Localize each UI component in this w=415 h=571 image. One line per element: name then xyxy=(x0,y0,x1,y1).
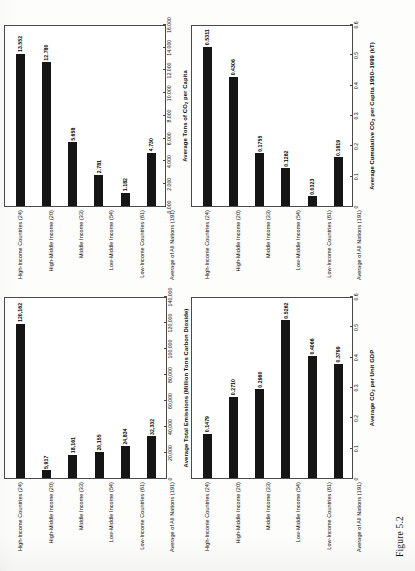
bar xyxy=(42,470,51,478)
axis-tick-label: 0.1 xyxy=(353,445,359,452)
category-label: High-Income Countries (24) xyxy=(18,479,24,563)
bar-value-label: 0.3799 xyxy=(335,346,341,362)
figure-caption: Figure 5.2 xyxy=(395,516,405,557)
category-label: High-Middle Income (20) xyxy=(236,479,242,563)
axis-tick-label: 0 xyxy=(353,478,359,481)
value-axis-co2-per-capita: 0.0002.0004.0006.0008.00010.00012.00014.… xyxy=(166,25,181,207)
axis-tick-label: 0.2 xyxy=(353,415,359,422)
category-label: Low-Middle Income (54) xyxy=(109,207,115,291)
category-label: Low-Middle Income (54) xyxy=(296,207,302,291)
bar-row: 12.780 xyxy=(41,26,52,206)
bar-value-label: 0.0323 xyxy=(309,179,315,195)
plot-wrap-total-emissions: 120,1625,91718,16120,15524,83432,332 020… xyxy=(4,297,189,479)
bar-row: 0.2960 xyxy=(254,298,265,478)
plot-area-total-emissions: 120,1625,91718,16120,15524,83432,332 xyxy=(4,297,167,479)
axis-tick-label: 14.000 xyxy=(166,40,172,56)
axis-tick-label: 0.5 xyxy=(353,324,359,331)
category-axis-total-emissions: High-Income Countries (24) High-Middle I… xyxy=(4,479,189,563)
bar xyxy=(121,446,130,478)
bar-value-label: 18,161 xyxy=(70,437,76,453)
bar xyxy=(68,142,77,206)
bar-row: 0.4306 xyxy=(228,26,239,206)
bar xyxy=(68,455,77,478)
bar-row: 5.658 xyxy=(67,26,78,206)
bar-value-label: 0.4066 xyxy=(309,338,315,354)
category-axis-co2-per-capita: High-Income Countries (24) High-Middle I… xyxy=(4,207,189,291)
bar xyxy=(334,364,343,478)
bar-value-label: 4.730 xyxy=(148,138,154,151)
bar-value-label: 0.2960 xyxy=(257,372,263,388)
category-label: Average of All Nations (191) xyxy=(170,207,176,291)
bar-value-label: 0.1619 xyxy=(335,140,341,156)
category-label: Low-Middle Income (54) xyxy=(296,479,302,563)
category-label: High-Income Countries (24) xyxy=(205,479,211,563)
axis-title-cumulative-co2: Average Cumulative CO2 per Capita 1950–1… xyxy=(369,25,376,207)
bar-row: 0.2710 xyxy=(228,298,239,478)
category-label: Low-Middle Income (54) xyxy=(109,479,115,563)
bar-row: 0.1755 xyxy=(254,26,265,206)
bar xyxy=(147,153,156,206)
chart-co2-per-capita: High-Income Countries (24) High-Middle I… xyxy=(4,25,189,291)
bar xyxy=(229,397,238,478)
axis-tick-label: 120,000 xyxy=(167,314,173,333)
bar-value-label: 120,162 xyxy=(17,303,23,322)
value-axis-cumulative-co2: 00.10.20.30.40.50.6 xyxy=(353,25,368,207)
bar xyxy=(121,193,130,206)
bar-value-label: 1.182 xyxy=(122,178,128,191)
category-label: Low-Income Countries (61) xyxy=(140,207,146,291)
bar xyxy=(229,77,238,206)
bar-row: 120,162 xyxy=(15,298,26,478)
bar-row: 0.1619 xyxy=(333,26,344,206)
plot-area-co2-per-capita: 13.55212.7805.6582.7811.1824.730 xyxy=(4,25,166,207)
bar-value-label: 0.1755 xyxy=(257,136,263,152)
bar-value-label: 12.780 xyxy=(43,45,49,61)
category-label: Middle Income (33) xyxy=(79,207,85,291)
bar xyxy=(94,175,103,206)
bar-value-label: 24,834 xyxy=(122,428,128,444)
bar-row: 1.182 xyxy=(120,26,131,206)
axis-tick-label: 0.000 xyxy=(166,201,172,214)
bar xyxy=(95,452,104,478)
subscript: 2 xyxy=(371,119,376,122)
plot-area-co2-per-unit-gdp: 0.14790.27100.29600.52620.40660.3799 xyxy=(191,297,353,479)
bar-row: 0.5311 xyxy=(202,26,213,206)
axis-tick-label: 0.3 xyxy=(353,112,359,119)
category-label: High-Income Countries (24) xyxy=(205,207,211,291)
category-label: Low-Income Countries (61) xyxy=(327,207,333,291)
bar-value-label: 0.1262 xyxy=(283,150,289,166)
bar-row: 0.5262 xyxy=(280,298,291,478)
bar-row: 0.3799 xyxy=(333,298,344,478)
category-label: High-Income Countries (24) xyxy=(18,207,24,291)
bar-row: 18,161 xyxy=(67,298,78,478)
axis-title-total-emissions: Average Total Emissions (Million Tons Ca… xyxy=(183,297,189,479)
category-label: High-Middle Income (20) xyxy=(49,479,55,563)
chart-co2-per-unit-gdp: High-Income Countries (24) High-Middle I… xyxy=(191,297,376,563)
bar xyxy=(203,47,212,206)
bar-row: 0.1262 xyxy=(280,26,291,206)
bar-value-label: 32,332 xyxy=(149,419,155,435)
bar-value-label: 0.1479 xyxy=(204,416,210,432)
axis-tick-label: 0.6 xyxy=(353,21,359,28)
category-label: Low-Income Countries (61) xyxy=(327,479,333,563)
bar xyxy=(147,436,156,478)
axis-tick-label: 60,000 xyxy=(167,393,173,409)
bar-row: 0.0323 xyxy=(307,26,318,206)
subscript: 2 xyxy=(184,102,189,105)
category-axis-cumulative-co2: High-Income Countries (24) High-Middle I… xyxy=(191,207,376,291)
bar xyxy=(42,62,51,206)
category-label: Middle Income (33) xyxy=(266,207,272,291)
category-label: Average of All Nations (191) xyxy=(170,479,176,563)
axis-title-co2-per-capita: Average Tons of CO2 per Capita xyxy=(182,25,189,207)
bar xyxy=(16,54,25,206)
axis-title-co2-per-unit-gdp: Average CO2 per Unit GDP xyxy=(369,297,376,479)
bar xyxy=(203,434,212,478)
bar xyxy=(281,320,290,478)
category-axis-co2-per-unit-gdp: High-Income Countries (24) High-Middle I… xyxy=(191,479,376,563)
bar xyxy=(334,157,343,206)
bar xyxy=(281,168,290,206)
axis-tick-label: 100,000 xyxy=(167,340,173,359)
bar-value-label: 20,155 xyxy=(96,434,102,450)
bar xyxy=(255,153,264,206)
axis-tick-label: 0 xyxy=(167,478,173,481)
category-label: Low-Income Countries (61) xyxy=(140,479,146,563)
